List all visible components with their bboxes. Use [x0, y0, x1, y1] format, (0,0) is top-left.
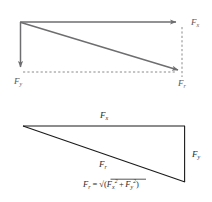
bottom-fy-label: Fy [191, 149, 201, 160]
top-fx-label: Fx [190, 17, 200, 28]
top-diagram-group: Fx Fy Fr [13, 17, 200, 89]
force-diagram-svg: Fx Fy Fr Fx Fy Fr Fr=√(Fx2+Fy2) [0, 0, 212, 202]
figure-root: Fx Fy Fr Fx Fy Fr Fr=√(Fx2+Fy2) [0, 0, 212, 202]
triangle-hypotenuse [23, 126, 185, 182]
resultant-formula-group: Fr=√(Fx2+Fy2) [82, 178, 146, 190]
top-fy-label: Fy [13, 76, 23, 87]
resultant-formula-text: Fr=√(Fx2+Fy2) [82, 178, 139, 190]
bottom-fr-label: Fr [98, 159, 108, 170]
bottom-fx-label: Fx [99, 110, 109, 121]
bottom-diagram-group: Fx Fy Fr Fr=√(Fx2+Fy2) [23, 110, 201, 190]
fr-vector-arrow [21, 23, 178, 71]
top-fr-label: Fr [177, 78, 187, 89]
